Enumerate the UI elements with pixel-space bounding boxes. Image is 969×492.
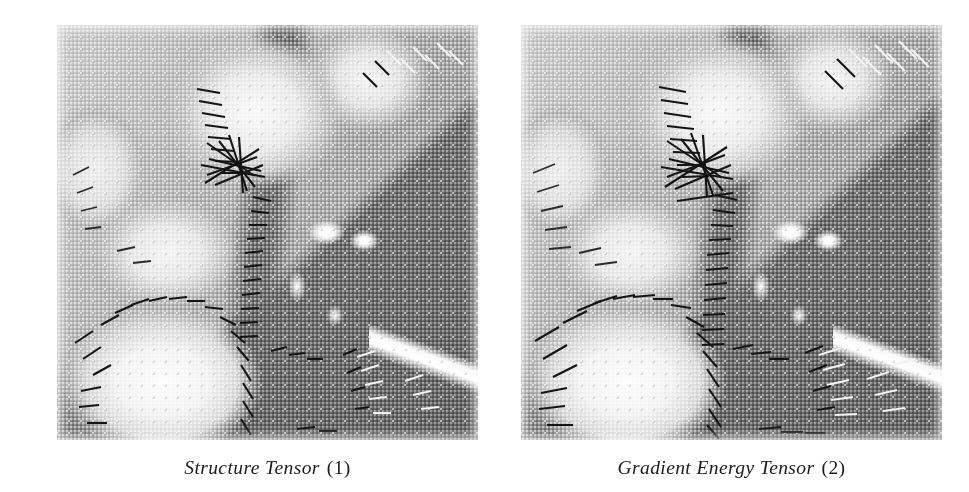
vector-field-bottom-right-stalk: [805, 346, 915, 415]
caption-gradient-energy-tensor: Gradient Energy Tensor(2): [521, 457, 942, 479]
caption-number: (2): [822, 457, 846, 478]
vector-field-diagonal-boundary: [363, 43, 463, 87]
caption-structure-tensor: Structure Tensor(1): [57, 457, 478, 479]
vector-field-dark-knot: [201, 135, 265, 193]
vector-field-center-vertical-crease: [702, 195, 737, 345]
vector-field-center-vertical-crease: [240, 197, 271, 337]
orientation-vector-overlay: [521, 25, 942, 440]
vector-field-dark-knot: [661, 133, 733, 201]
panel-gradient-energy-tensor: Gradient Energy Tensor(2): [521, 25, 942, 479]
tensor-image-structure: [57, 25, 478, 440]
vector-field-bottom-band: [271, 347, 337, 431]
vector-field-bottom-left-round-pepper: [535, 295, 721, 439]
vector-field-diagonal-boundary: [825, 41, 929, 89]
vector-field-bottom-band: [733, 345, 825, 433]
vector-field-upper-left-lobe: [533, 164, 617, 265]
tensor-image-gradient-energy: [521, 25, 942, 440]
caption-number: (1): [327, 457, 351, 478]
vector-field-bottom-left-round-pepper: [75, 297, 253, 435]
caption-name: Structure Tensor: [184, 457, 320, 478]
vector-field-bottom-right-stalk: [343, 349, 439, 413]
panel-structure-tensor: Structure Tensor(1): [57, 25, 478, 479]
figure-two-panel-comparison: Structure Tensor(1): [0, 0, 969, 492]
orientation-vector-overlay: [57, 25, 478, 440]
vector-field-upper-left-lobe: [73, 167, 151, 263]
caption-name: Gradient Energy Tensor: [618, 457, 815, 478]
